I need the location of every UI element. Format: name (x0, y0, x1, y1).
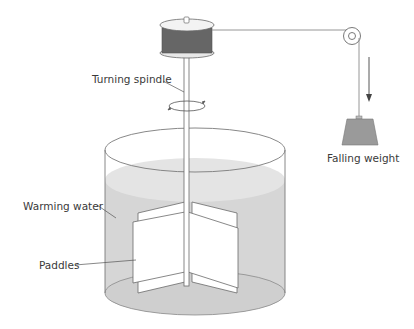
water-surface (105, 158, 285, 202)
falling-weight (342, 116, 378, 145)
joule-apparatus-diagram: Turning spindle Falling weight Warming w… (0, 0, 414, 329)
label-warming-water: Warming water (23, 201, 103, 212)
label-turning-spindle: Turning spindle (92, 74, 172, 85)
label-paddles: Paddles (39, 260, 79, 271)
turning-spindle (184, 56, 189, 286)
apparatus-drawing (0, 0, 414, 329)
pulley-wheel (344, 28, 361, 45)
down-arrow-icon (366, 57, 372, 102)
label-falling-weight: Falling weight (327, 153, 399, 164)
winding-drum (160, 17, 214, 58)
